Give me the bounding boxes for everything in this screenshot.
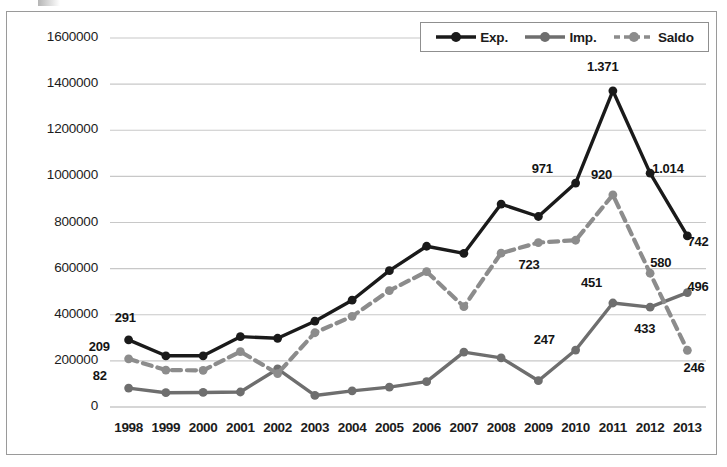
legend-item-exp[interactable]: Exp.: [435, 30, 508, 45]
data-point-saldo: [199, 366, 208, 375]
legend-item-imp[interactable]: Imp.: [524, 30, 596, 45]
data-point-exp: [459, 249, 468, 258]
data-point-label: 247: [534, 332, 555, 347]
data-point-exp: [310, 317, 319, 326]
data-point-saldo: [236, 347, 245, 356]
data-point-imp: [422, 377, 431, 386]
data-point-imp: [646, 303, 655, 312]
data-point-exp: [124, 335, 133, 344]
data-point-imp: [310, 391, 319, 400]
data-point-saldo: [459, 302, 468, 311]
series-line-imp: [129, 293, 688, 396]
data-point-saldo: [385, 286, 394, 295]
chart-legend: Exp. Imp. Saldo: [420, 22, 709, 52]
data-point-label: 246: [683, 360, 704, 375]
y-axis-tick-label: 0: [14, 398, 98, 413]
legend-label-imp: Imp.: [569, 30, 596, 45]
gridlines: [110, 38, 706, 407]
data-point-exp: [608, 86, 617, 95]
data-point-saldo: [310, 328, 319, 337]
x-axis-tick-label: 2013: [664, 420, 710, 435]
chart-page: 0200000400000600000800000100000012000001…: [0, 0, 727, 467]
y-axis-tick-label: 1600000: [14, 29, 98, 44]
data-point-imp: [348, 386, 357, 395]
data-point-imp: [161, 388, 170, 397]
y-axis-tick-label: 1200000: [14, 121, 98, 136]
data-point-exp: [571, 179, 580, 188]
line-marker-solid-black-icon: [435, 30, 477, 44]
data-point-imp: [497, 353, 506, 362]
data-point-imp: [385, 383, 394, 392]
data-point-exp: [348, 296, 357, 305]
data-point-saldo: [124, 354, 133, 363]
data-point-saldo: [273, 369, 282, 378]
data-point-label: 433: [634, 321, 655, 336]
data-point-imp: [124, 384, 133, 393]
data-point-imp: [571, 346, 580, 355]
data-point-label: 920: [591, 167, 612, 182]
data-point-exp: [236, 332, 245, 341]
data-point-exp: [161, 351, 170, 360]
y-axis-tick-label: 400000: [14, 306, 98, 321]
line-marker-solid-gray-icon: [524, 30, 566, 44]
data-point-saldo: [608, 190, 617, 199]
data-point-label: 742: [687, 234, 708, 249]
data-point-label: 1.371: [587, 59, 619, 74]
series-layer: [124, 86, 692, 399]
data-point-saldo: [348, 312, 357, 321]
data-point-label: 1.014: [652, 161, 684, 176]
data-point-label: 580: [650, 255, 671, 270]
data-point-imp: [534, 376, 543, 385]
data-point-imp: [459, 348, 468, 357]
data-point-saldo: [571, 236, 580, 245]
data-point-imp: [608, 299, 617, 308]
data-point-exp: [273, 334, 282, 343]
legend-label-saldo: Saldo: [658, 30, 694, 45]
data-point-exp: [385, 266, 394, 275]
data-point-saldo: [422, 267, 431, 276]
data-point-label: 82: [93, 368, 107, 383]
y-axis-tick-label: 1000000: [14, 167, 98, 182]
y-axis-tick-label: 600000: [14, 260, 98, 275]
data-point-exp: [534, 212, 543, 221]
data-point-label: 496: [687, 279, 708, 294]
y-axis-tick-label: 200000: [14, 352, 98, 367]
data-point-saldo: [534, 238, 543, 247]
legend-item-saldo[interactable]: Saldo: [613, 30, 694, 45]
data-point-imp: [236, 388, 245, 397]
legend-label-exp: Exp.: [480, 30, 508, 45]
y-axis-tick-label: 1400000: [14, 75, 98, 90]
data-point-label: 971: [532, 161, 553, 176]
data-point-label: 291: [115, 310, 136, 325]
data-point-saldo: [497, 249, 506, 258]
data-point-exp: [422, 242, 431, 251]
y-axis-tick-label: 800000: [14, 214, 98, 229]
data-point-saldo: [161, 366, 170, 375]
series-line-saldo: [129, 195, 688, 374]
data-point-exp: [497, 200, 506, 209]
line-marker-dashed-gray-icon: [613, 30, 655, 44]
data-point-saldo: [683, 346, 692, 355]
data-point-label: 723: [518, 257, 539, 272]
data-point-label: 451: [581, 275, 602, 290]
data-point-exp: [199, 351, 208, 360]
data-point-imp: [199, 388, 208, 397]
data-point-label: 209: [89, 339, 110, 354]
